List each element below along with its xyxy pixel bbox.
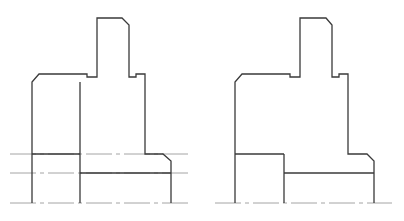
right-view [215,18,392,203]
left-view [10,18,188,203]
part-outline [32,18,171,203]
part-outline [235,18,374,203]
technical-drawing [0,0,404,221]
